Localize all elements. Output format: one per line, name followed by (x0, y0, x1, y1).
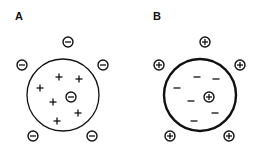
outer-ion-icon (154, 60, 164, 70)
positive-charge-icon (54, 118, 61, 125)
outer-ion-icon (17, 60, 27, 70)
positive-charge-icon (50, 99, 57, 106)
plus-sign-icon (206, 94, 212, 100)
panel-a-label: A (15, 10, 23, 22)
positive-charge-icon (76, 76, 83, 83)
positive-charge-icon (37, 85, 44, 92)
outer-ion-icon (98, 60, 108, 70)
outer-ion-icon (165, 131, 175, 141)
plus-sign-icon (237, 62, 243, 68)
outer-ion-icon (224, 131, 234, 141)
charge-diagram: A B (0, 0, 255, 153)
plus-sign-icon (156, 62, 162, 68)
panel-b: B (153, 10, 245, 141)
panel-b-label: B (153, 10, 161, 22)
outer-ion-icon (87, 131, 97, 141)
center-ion-icon (66, 92, 76, 102)
outer-ion-icon (63, 37, 73, 47)
plus-sign-icon (167, 133, 173, 139)
panel-a: A (15, 10, 108, 141)
sphere-outline (27, 59, 99, 131)
plus-sign-icon (202, 39, 208, 45)
outer-ion-icon (235, 60, 245, 70)
outer-ion-icon (28, 131, 38, 141)
center-ion-icon (204, 92, 214, 102)
positive-charge-icon (56, 74, 63, 81)
plus-sign-icon (226, 133, 232, 139)
positive-charge-icon (75, 110, 82, 117)
outer-ion-icon (200, 37, 210, 47)
sphere-outline (164, 59, 236, 131)
